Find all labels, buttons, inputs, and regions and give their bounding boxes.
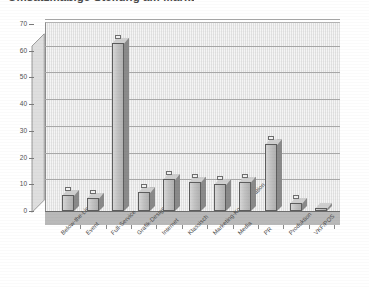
x-axis-tick-mark xyxy=(233,225,234,229)
chart-title: Umsatzmäßige Stellung am Markt xyxy=(8,0,194,4)
x-axis-tick-mark xyxy=(182,225,183,229)
y-axis-tick-mark xyxy=(29,131,34,132)
x-axis-tick-mark xyxy=(131,225,132,229)
gridline xyxy=(45,99,340,100)
bar-column[interactable] xyxy=(189,177,201,211)
y-axis-tick-mark xyxy=(29,184,34,185)
y-axis-tick-mark xyxy=(29,158,34,159)
gridline xyxy=(45,72,340,73)
bar-column[interactable] xyxy=(290,198,302,211)
y-axis-tick-mark xyxy=(29,51,34,52)
bar-value-cap xyxy=(115,35,121,39)
x-axis-tick-mark xyxy=(207,225,208,229)
bar-outline xyxy=(87,193,104,211)
bar-column[interactable] xyxy=(315,203,327,211)
bar-column[interactable] xyxy=(163,174,175,211)
bar-outline xyxy=(265,139,282,211)
bar-outline xyxy=(315,203,332,211)
bar-column[interactable] xyxy=(87,193,99,211)
bar-outline xyxy=(163,174,180,211)
bar-column[interactable] xyxy=(112,38,124,211)
y-axis-tick-label: 0 xyxy=(3,207,27,214)
x-axis-tick-mark xyxy=(258,225,259,229)
x-axis-tick-mark xyxy=(80,225,81,229)
bar-outline xyxy=(214,179,231,211)
bar-outline xyxy=(239,177,256,211)
bar-value-cap xyxy=(217,176,223,180)
bar-chart: Umsatzmäßige Stellung am Markt 010203040… xyxy=(0,0,369,287)
bar-value-cap xyxy=(166,171,172,175)
bar-outline xyxy=(62,190,79,211)
y-axis-tick-label: 60 xyxy=(3,47,27,54)
bar-outline xyxy=(290,198,307,211)
y-axis-tick-mark xyxy=(29,211,34,212)
bar-value-cap xyxy=(293,195,299,199)
bar-column[interactable] xyxy=(265,139,277,211)
x-axis-tick-mark xyxy=(156,225,157,229)
bar-value-cap xyxy=(192,174,198,178)
bar-value-cap xyxy=(268,136,274,140)
bar-outline xyxy=(112,38,129,211)
y-axis-tick-mark xyxy=(29,77,34,78)
bar-outline xyxy=(138,187,155,211)
gridline xyxy=(45,46,340,47)
bar-column[interactable] xyxy=(138,187,150,211)
x-axis-tick-mark xyxy=(283,225,284,229)
bar-column[interactable] xyxy=(239,177,251,211)
gridline xyxy=(45,153,340,154)
y-axis-tick-label: 70 xyxy=(3,20,27,27)
bar-value-cap xyxy=(242,174,248,178)
x-axis-tick-mark xyxy=(106,225,107,229)
x-axis-tick-mark xyxy=(334,225,335,229)
gridline xyxy=(45,126,340,127)
y-axis-tick-label: 50 xyxy=(3,73,27,80)
bar-outline xyxy=(189,177,206,211)
y-axis-tick-mark xyxy=(29,104,34,105)
y-axis-tick-mark xyxy=(29,24,34,25)
y-axis-tick-label: 10 xyxy=(3,180,27,187)
plot-side-wall xyxy=(32,22,46,225)
y-axis-tick-label: 40 xyxy=(3,100,27,107)
bar-value-cap xyxy=(90,190,96,194)
x-axis-tick-mark xyxy=(309,225,310,229)
y-axis-tick-label: 30 xyxy=(3,127,27,134)
y-axis-tick-label: 20 xyxy=(3,154,27,161)
x-axis-tick-label: PR xyxy=(263,226,273,236)
bar-value-cap xyxy=(141,184,147,188)
bar-value-cap xyxy=(65,187,71,191)
bar-column[interactable] xyxy=(214,179,226,211)
bar-column[interactable] xyxy=(62,190,74,211)
gridline xyxy=(45,19,340,20)
